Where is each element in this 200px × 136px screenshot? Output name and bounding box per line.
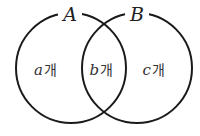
region-a-and-b-unit: 개 xyxy=(100,62,113,78)
region-only-a: a 개 xyxy=(34,61,57,79)
set-a-label: A xyxy=(61,3,77,25)
venn-diagram: A B a 개 b 개 c 개 xyxy=(0,0,200,136)
region-only-b-var: c xyxy=(143,61,152,79)
region-only-a-var: a xyxy=(34,61,43,79)
region-only-b: c 개 xyxy=(143,61,165,79)
region-a-and-b: b 개 xyxy=(89,61,113,79)
set-b-label: B xyxy=(129,3,144,25)
region-only-a-unit: 개 xyxy=(44,62,57,78)
region-only-b-unit: 개 xyxy=(152,62,165,78)
region-a-and-b-var: b xyxy=(89,61,99,79)
